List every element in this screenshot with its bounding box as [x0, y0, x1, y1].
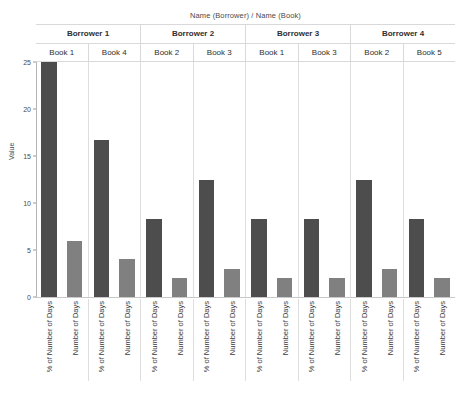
x-axis-label-wrap-5-2: Number of Days [277, 299, 292, 381]
bar-2-1[interactable] [94, 140, 109, 297]
bar-4-2[interactable] [224, 269, 239, 297]
book-panel-7 [351, 62, 404, 297]
x-axis-label-wrap-4-1: % of Number of Days [199, 299, 214, 381]
x-axis-label-8-2[interactable]: Number of Days [438, 301, 447, 355]
x-axis-label-5-2[interactable]: Number of Days [280, 301, 289, 355]
bar-2-2[interactable] [119, 259, 134, 297]
borrower-header-1[interactable]: Borrower 1 [36, 25, 141, 43]
x-axis-label-wrap-6-1: % of Number of Days [304, 299, 319, 381]
book-header-1[interactable]: Book 1 [36, 44, 89, 62]
bar-8-2[interactable] [434, 278, 449, 297]
x-axis-label-3-2[interactable]: Number of Days [175, 301, 184, 355]
bar-8-1[interactable] [409, 219, 424, 297]
bar-6-2[interactable] [329, 278, 344, 297]
x-axis-label-3-1[interactable]: % of Number of Days [149, 301, 158, 372]
x-label-panel-2: % of Number of DaysNumber of Days [89, 299, 142, 381]
borrower-header-4[interactable]: Borrower 4 [351, 25, 455, 43]
bar-5-1[interactable] [251, 219, 266, 297]
x-label-panel-4: % of Number of DaysNumber of Days [194, 299, 247, 381]
bar-chart: Name (Borrower) / Name (Book) Borrower 1… [0, 0, 473, 396]
bar-3-2[interactable] [172, 278, 187, 297]
y-tick-label-10: 10 [23, 200, 31, 207]
x-label-panel-1: % of Number of DaysNumber of Days [36, 299, 89, 381]
x-axis-label-wrap-6-2: Number of Days [329, 299, 344, 381]
x-axis-label-2-1[interactable]: % of Number of Days [97, 301, 106, 372]
plot-area [36, 62, 455, 297]
bar-1-2[interactable] [67, 241, 82, 297]
bar-3-1[interactable] [146, 219, 161, 297]
x-axis-label-wrap-7-1: % of Number of Days [356, 299, 371, 381]
bar-4-1[interactable] [199, 180, 214, 298]
chart-title: Name (Borrower) / Name (Book) [36, 11, 455, 20]
x-axis-baseline [36, 297, 455, 298]
x-axis-measure-labels: % of Number of DaysNumber of Days% of Nu… [36, 299, 455, 381]
y-axis-label: Value [8, 143, 15, 160]
x-label-panel-6: % of Number of DaysNumber of Days [299, 299, 352, 381]
x-axis-label-wrap-1-2: Number of Days [67, 299, 82, 381]
borrower-header-row: Borrower 1Borrower 2Borrower 3Borrower 4 [36, 25, 455, 44]
x-label-panel-5: % of Number of DaysNumber of Days [246, 299, 299, 381]
x-label-panel-3: % of Number of DaysNumber of Days [141, 299, 194, 381]
book-header-row: Book 1Book 4Book 2Book 3Book 1Book 3Book… [36, 44, 455, 62]
book-header-5[interactable]: Book 1 [246, 44, 299, 62]
x-axis-label-4-2[interactable]: Number of Days [228, 301, 237, 355]
bar-1-1[interactable] [41, 62, 56, 297]
x-axis-label-5-1[interactable]: % of Number of Days [254, 301, 263, 372]
y-tick-label-5: 5 [27, 247, 31, 254]
book-panel-1 [36, 62, 89, 297]
x-axis-label-6-1[interactable]: % of Number of Days [307, 301, 316, 372]
book-header-8[interactable]: Book 5 [404, 44, 456, 62]
x-axis-label-1-2[interactable]: Number of Days [70, 301, 79, 355]
bars-container [36, 62, 455, 297]
panel-header-band: Borrower 1Borrower 2Borrower 3Borrower 4… [36, 24, 455, 62]
x-axis-label-8-1[interactable]: % of Number of Days [412, 301, 421, 372]
x-axis-label-wrap-8-1: % of Number of Days [409, 299, 424, 381]
bar-7-2[interactable] [382, 269, 397, 297]
x-axis-label-wrap-1-1: % of Number of Days [41, 299, 56, 381]
y-tick-label-20: 20 [23, 106, 31, 113]
book-panel-8 [404, 62, 456, 297]
x-axis-label-wrap-3-1: % of Number of Days [146, 299, 161, 381]
book-panel-2 [89, 62, 142, 297]
x-axis-label-wrap-2-1: % of Number of Days [94, 299, 109, 381]
bar-6-1[interactable] [304, 219, 319, 297]
x-axis-label-wrap-4-2: Number of Days [224, 299, 239, 381]
x-axis-label-2-2[interactable]: Number of Days [123, 301, 132, 355]
y-tick-label-15: 15 [23, 153, 31, 160]
x-label-panel-8: % of Number of DaysNumber of Days [404, 299, 456, 381]
bar-7-1[interactable] [356, 180, 371, 298]
book-panel-4 [194, 62, 247, 297]
book-header-3[interactable]: Book 2 [141, 44, 194, 62]
x-axis-label-1-1[interactable]: % of Number of Days [44, 301, 53, 372]
book-header-6[interactable]: Book 3 [299, 44, 352, 62]
book-panel-6 [299, 62, 352, 297]
x-axis-label-wrap-7-2: Number of Days [382, 299, 397, 381]
book-header-2[interactable]: Book 4 [89, 44, 142, 62]
borrower-header-2[interactable]: Borrower 2 [141, 25, 246, 43]
borrower-header-3[interactable]: Borrower 3 [246, 25, 351, 43]
y-tick-label-0: 0 [27, 294, 31, 301]
x-axis-label-wrap-2-2: Number of Days [119, 299, 134, 381]
x-axis-label-wrap-8-2: Number of Days [434, 299, 449, 381]
x-label-panel-7: % of Number of DaysNumber of Days [351, 299, 404, 381]
y-axis: 0510152025 [0, 62, 36, 298]
x-axis-label-wrap-5-1: % of Number of Days [251, 299, 266, 381]
book-panel-5 [246, 62, 299, 297]
x-axis-label-4-1[interactable]: % of Number of Days [202, 301, 211, 372]
book-header-4[interactable]: Book 3 [194, 44, 247, 62]
x-axis-label-6-2[interactable]: Number of Days [333, 301, 342, 355]
book-panel-3 [141, 62, 194, 297]
book-header-7[interactable]: Book 2 [351, 44, 404, 62]
bar-5-2[interactable] [277, 278, 292, 297]
x-axis-label-wrap-3-2: Number of Days [172, 299, 187, 381]
y-tick-label-25: 25 [23, 59, 31, 66]
x-axis-label-7-2[interactable]: Number of Days [385, 301, 394, 355]
x-axis-label-7-1[interactable]: % of Number of Days [359, 301, 368, 372]
